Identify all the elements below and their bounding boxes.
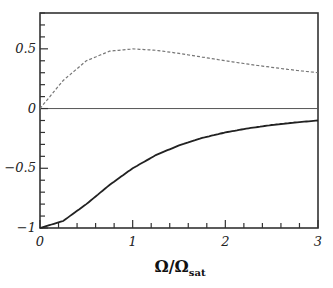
y-tick-label: −0.5 — [4, 160, 36, 175]
x-tick-label: 1 — [129, 234, 137, 249]
x-tick-label: 2 — [220, 234, 229, 249]
x-tick-label: 0 — [36, 234, 44, 249]
series-dashed-line — [40, 49, 318, 109]
y-tick-label: 0.5 — [15, 41, 36, 56]
y-tick-label: 0 — [28, 101, 36, 116]
chart: 0123−1−0.500.5 Ω/Ωsat — [0, 0, 333, 288]
x-axis-label: Ω/Ωsat — [154, 257, 205, 278]
series-solid-line — [40, 121, 318, 229]
x-tick-label: 3 — [314, 234, 322, 249]
plot-frame — [40, 13, 318, 228]
plot-area: 0123−1−0.500.5 — [4, 13, 322, 249]
y-tick-label: −1 — [17, 220, 36, 235]
